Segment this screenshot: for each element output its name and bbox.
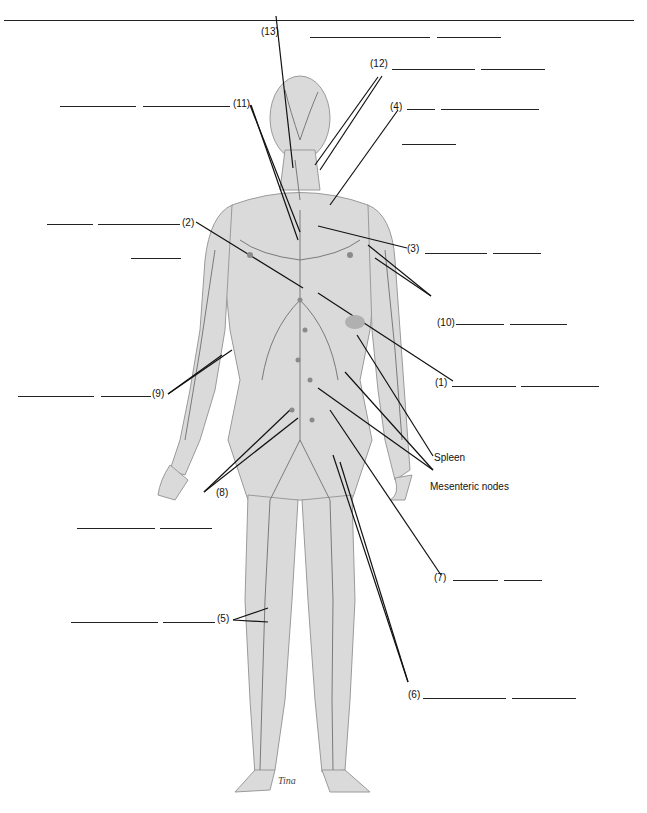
label-7: (7) (434, 572, 446, 584)
blank-7a[interactable] (453, 580, 498, 581)
label-mesenteric-nodes: Mesenteric nodes (430, 481, 509, 493)
blank-6a[interactable] (423, 698, 506, 699)
label-10: (10) (437, 317, 455, 329)
label-4: (4) (390, 101, 402, 113)
blank-3b[interactable] (493, 253, 541, 254)
label-8: (8) (216, 487, 228, 499)
label-12: (12) (370, 58, 388, 70)
blank-7b[interactable] (504, 580, 542, 581)
blank-2b[interactable] (98, 224, 180, 225)
blank-1a[interactable] (452, 386, 516, 387)
label-3: (3) (407, 243, 419, 255)
blank-4c[interactable] (402, 144, 456, 145)
label-9: (9) (152, 388, 164, 400)
blank-9b[interactable] (101, 396, 151, 397)
blank-1b[interactable] (521, 386, 599, 387)
blank-11a[interactable] (60, 106, 136, 107)
blank-9a[interactable] (18, 396, 94, 397)
blank-5b[interactable] (163, 622, 215, 623)
blank-13a[interactable] (310, 37, 430, 38)
blank-8b[interactable] (160, 528, 212, 529)
artist-signature: Tina (278, 775, 296, 786)
blank-4b[interactable] (441, 109, 539, 110)
blank-10b[interactable] (510, 324, 567, 325)
blank-3a[interactable] (425, 253, 487, 254)
blank-5a[interactable] (71, 622, 158, 623)
blank-6b[interactable] (512, 698, 576, 699)
label-spleen: Spleen (434, 452, 465, 464)
blank-4a[interactable] (407, 109, 435, 110)
lymphatic-body-illustration: Tina (0, 0, 647, 813)
label-6: (6) (408, 689, 420, 701)
blank-2a[interactable] (47, 224, 93, 225)
label-2: (2) (182, 217, 194, 229)
blank-12b[interactable] (481, 69, 545, 70)
blank-12a[interactable] (392, 69, 475, 70)
label-13: (13) (261, 26, 279, 38)
blank-8a[interactable] (77, 528, 155, 529)
label-11: (11) (233, 98, 250, 110)
blank-2c[interactable] (131, 258, 181, 259)
blank-10a[interactable] (456, 324, 504, 325)
blank-13b[interactable] (437, 37, 501, 38)
label-5: (5) (217, 613, 229, 625)
label-1: (1) (435, 377, 447, 389)
blank-11b[interactable] (143, 106, 230, 107)
